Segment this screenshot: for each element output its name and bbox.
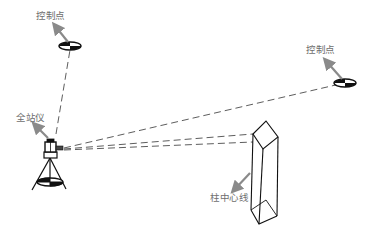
control-point-left-label: 控制点 bbox=[36, 8, 65, 22]
sight-line-to-column-mid bbox=[64, 142, 253, 150]
sight-line-to-left-control bbox=[56, 50, 70, 134]
sight-line-to-column-top bbox=[64, 134, 253, 149]
control-point-right-label: 控制点 bbox=[306, 42, 335, 56]
arrow-icon bbox=[56, 27, 68, 42]
column-icon bbox=[251, 121, 278, 224]
control-point-right-marker bbox=[334, 79, 356, 87]
column-centerline-label: 柱中心线 bbox=[210, 190, 248, 204]
sight-lines bbox=[56, 50, 340, 150]
arrow-icon bbox=[235, 173, 250, 189]
total-station-icon bbox=[32, 139, 66, 190]
arrow-icon bbox=[36, 126, 48, 138]
control-point-left-marker bbox=[59, 42, 81, 50]
survey-diagram bbox=[0, 0, 370, 240]
arrow-icon bbox=[327, 62, 342, 79]
total-station-label: 全站仪 bbox=[16, 110, 45, 124]
